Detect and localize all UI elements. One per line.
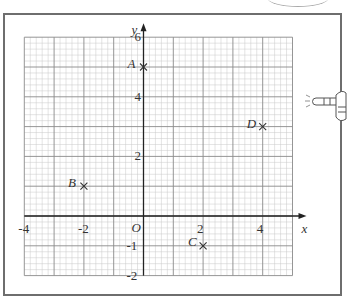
y-tick-label: 2 xyxy=(135,149,142,162)
point-label-b: B xyxy=(68,176,76,189)
point-label-d: D xyxy=(247,117,256,130)
x-tick-label: -2 xyxy=(78,222,89,235)
pointing-hand-icon xyxy=(300,85,347,125)
y-tick-label: -2 xyxy=(127,269,138,282)
x-tick-label: -4 xyxy=(18,222,29,235)
y-tick-label: -1 xyxy=(127,239,138,252)
y-tick-label: 4 xyxy=(135,90,142,103)
y-axis-label: y xyxy=(132,23,138,36)
origin-label: O xyxy=(132,221,141,234)
point-label-c: C xyxy=(188,235,197,248)
x-tick-label: 4 xyxy=(257,222,264,235)
point-label-a: A xyxy=(128,57,136,70)
x-axis-label: x xyxy=(302,222,308,235)
coordinate-grid-chart xyxy=(0,0,347,307)
x-tick-label: 2 xyxy=(197,222,204,235)
